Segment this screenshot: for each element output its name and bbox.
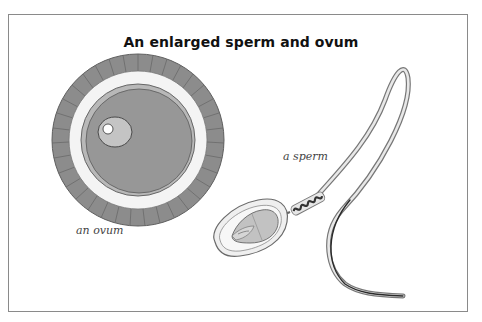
ovum-label: an ovum (76, 224, 124, 237)
sperm-illustration (214, 69, 409, 296)
sperm-midpiece (290, 191, 326, 217)
nucleus (98, 117, 132, 147)
sperm-label: a sperm (283, 150, 328, 163)
nucleolus (103, 124, 113, 134)
ovum-illustration (52, 54, 224, 226)
illustration (0, 0, 482, 322)
